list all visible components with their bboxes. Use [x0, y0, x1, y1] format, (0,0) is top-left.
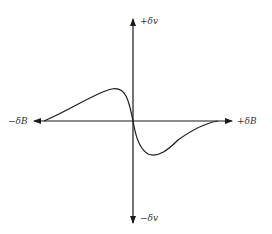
diagram-canvas: +δv −δv −δB +δB — [0, 0, 272, 234]
x-positive-label: +δB — [237, 116, 257, 126]
derivative-curve — [44, 88, 218, 155]
y-positive-label: +δv — [140, 16, 158, 26]
y-negative-label: −δv — [140, 213, 158, 223]
x-negative-label: −δB — [8, 116, 28, 126]
